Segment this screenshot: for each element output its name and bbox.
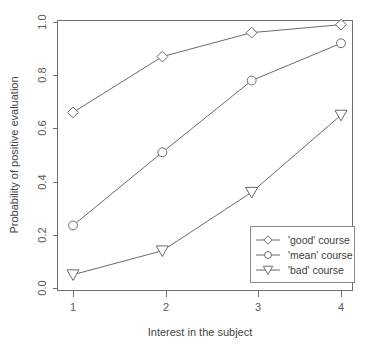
data-point-marker (67, 270, 79, 281)
chart-legend: 'good' course 'mean' course 'bad' course (251, 227, 355, 283)
y-axis-title: Probability of positive evaluation (8, 76, 20, 233)
x-tick-label: 3 (255, 301, 261, 313)
series-line (73, 43, 341, 225)
x-axis-title: Interest in the subject (148, 326, 253, 338)
chart-container: 0.0 0.2 0.4 0.6 0.8 1.0 Probability of p… (0, 0, 376, 350)
series-1 (68, 19, 347, 118)
data-point-marker (337, 39, 346, 48)
x-axis-ticks (74, 291, 342, 297)
y-axis-ticks (53, 23, 58, 289)
series-2 (69, 39, 346, 230)
data-point-marker (157, 51, 168, 62)
legend-label: 'good' course (288, 234, 350, 246)
legend-label: 'bad' course (288, 264, 344, 276)
y-tick-label: 1.0 (36, 14, 48, 29)
circle-marker-icon (265, 252, 272, 259)
x-axis-tick-labels: 1 2 3 4 (70, 301, 344, 313)
data-point-marker (68, 107, 79, 118)
y-tick-label: 0.6 (36, 120, 48, 135)
y-tick-label: 0.4 (36, 174, 48, 189)
y-tick-label: 0.8 (36, 67, 48, 82)
series-line (73, 25, 341, 113)
x-tick-label: 1 (70, 301, 76, 313)
y-axis-tick-labels: 0.0 0.2 0.4 0.6 0.8 1.0 (36, 14, 48, 295)
data-point-marker (69, 221, 78, 230)
x-tick-label: 4 (338, 301, 344, 313)
line-chart: 0.0 0.2 0.4 0.6 0.8 1.0 Probability of p… (0, 0, 376, 350)
y-tick-label: 0.0 (36, 280, 48, 295)
y-tick-label: 0.2 (36, 227, 48, 242)
x-tick-label: 2 (163, 301, 169, 313)
data-point-marker (158, 148, 167, 157)
data-point-marker (156, 246, 168, 257)
data-point-marker (246, 27, 257, 38)
data-point-marker (246, 187, 258, 198)
data-point-marker (247, 76, 256, 85)
legend-label: 'mean' course (288, 249, 353, 261)
